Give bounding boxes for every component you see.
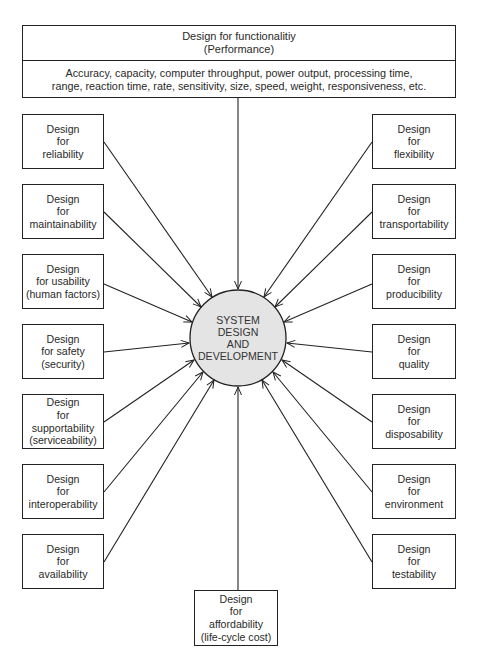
box-line: for bbox=[230, 605, 242, 618]
box-line: availability bbox=[39, 568, 88, 581]
box-transportability: Design for transportability bbox=[372, 184, 456, 239]
box-line: testability bbox=[392, 568, 436, 581]
box-line: reliability bbox=[42, 148, 83, 161]
box-interoperability: Design for interoperability bbox=[22, 464, 104, 519]
box-line: Design bbox=[47, 123, 80, 136]
box-line: quality bbox=[399, 358, 430, 371]
functionality-subtitle: (Performance) bbox=[204, 43, 274, 56]
box-line: for bbox=[408, 485, 420, 498]
box-reliability: Design for reliability bbox=[22, 114, 104, 169]
box-line: for bbox=[57, 135, 69, 148]
box-line: Design bbox=[398, 123, 431, 136]
box-line: Design bbox=[398, 333, 431, 346]
box-availability: Design for availability bbox=[22, 534, 104, 589]
box-line: interoperability bbox=[29, 498, 98, 511]
box-line: (life-cycle cost) bbox=[201, 631, 272, 644]
box-line: for bbox=[57, 555, 69, 568]
functionality-description: Accuracy, capacity, computer throughput,… bbox=[23, 61, 455, 99]
box-line: maintainability bbox=[29, 218, 96, 231]
box-line: Design bbox=[47, 263, 80, 276]
box-line: flexibility bbox=[394, 148, 434, 161]
box-line: disposability bbox=[385, 428, 443, 441]
box-testability: Design for testability bbox=[372, 534, 456, 589]
box-affordability: Design for affordability (life-cycle cos… bbox=[194, 590, 278, 646]
box-line: for bbox=[57, 205, 69, 218]
box-flexibility: Design for flexibility bbox=[372, 114, 456, 169]
box-line: for bbox=[408, 415, 420, 428]
box-line: Design bbox=[47, 543, 80, 556]
box-producibility: Design for producibility bbox=[372, 254, 456, 309]
box-line: for safety bbox=[41, 345, 85, 358]
box-quality: Design for quality bbox=[372, 324, 456, 379]
box-line: for bbox=[57, 409, 69, 422]
box-line: affordability bbox=[209, 618, 263, 631]
box-line: producibility bbox=[386, 288, 442, 301]
box-line: Design bbox=[47, 473, 80, 486]
description-line-1: Accuracy, capacity, computer throughput,… bbox=[65, 67, 412, 81]
hub-line-2: DESIGN bbox=[218, 326, 259, 338]
box-line: for bbox=[408, 275, 420, 288]
box-line: supportability bbox=[32, 422, 94, 435]
box-line: Design bbox=[398, 403, 431, 416]
box-line: Design bbox=[47, 396, 80, 409]
box-line: Design bbox=[398, 543, 431, 556]
box-environment: Design for environment bbox=[372, 464, 456, 519]
functionality-header: Design for functionalitiy (Performance) bbox=[23, 26, 455, 61]
box-line: (security) bbox=[41, 358, 85, 371]
functionality-title: Design for functionalitiy bbox=[182, 30, 296, 43]
box-line: transportability bbox=[380, 218, 449, 231]
box-line: for bbox=[408, 205, 420, 218]
hub-line-4: DEVELOPMENT bbox=[198, 350, 278, 362]
functionality-box: Design for functionalitiy (Performance) … bbox=[22, 25, 456, 98]
box-safety: Design for safety (security) bbox=[22, 324, 104, 379]
hub-line-3: AND bbox=[227, 338, 249, 350]
description-line-2: range, reaction time, rate, sensitivity,… bbox=[52, 80, 426, 94]
box-line: for bbox=[408, 135, 420, 148]
box-line: Design bbox=[220, 593, 253, 606]
box-line: for bbox=[57, 485, 69, 498]
box-supportability: Design for supportability (serviceabilit… bbox=[22, 394, 104, 449]
box-line: for bbox=[408, 345, 420, 358]
hub-line-1: SYSTEM bbox=[216, 314, 260, 326]
box-line: Design bbox=[398, 473, 431, 486]
box-line: Design bbox=[398, 263, 431, 276]
box-line: for usability bbox=[36, 275, 90, 288]
hub-label: SYSTEM DESIGN AND DEVELOPMENT bbox=[190, 290, 286, 386]
box-maintainability: Design for maintainability bbox=[22, 184, 104, 239]
box-line: (serviceability) bbox=[29, 434, 97, 447]
box-line: Design bbox=[47, 193, 80, 206]
box-line: environment bbox=[385, 498, 443, 511]
box-line: Design bbox=[47, 333, 80, 346]
box-line: for bbox=[408, 555, 420, 568]
box-line: (human factors) bbox=[26, 288, 100, 301]
box-line: Design bbox=[398, 193, 431, 206]
box-disposability: Design for disposability bbox=[372, 394, 456, 449]
box-usability: Design for usability (human factors) bbox=[22, 254, 104, 309]
